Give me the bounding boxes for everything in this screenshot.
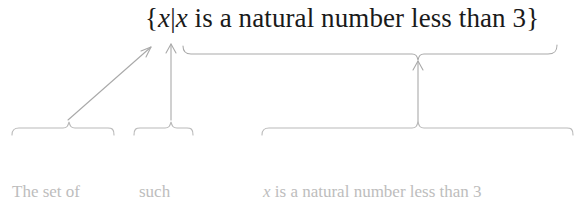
annotation-such-that: such that bbox=[139, 137, 170, 199]
arrow-set-of-all-x bbox=[68, 47, 151, 120]
annotation-condition-line1: x is a natural number less than 3 bbox=[263, 181, 482, 199]
arrow-condition bbox=[413, 61, 423, 122]
annotation-set-of-all-x-line1: The set of bbox=[12, 181, 80, 199]
annotation-set-of-all-x: The set of all x bbox=[12, 137, 80, 199]
brace-condition bbox=[262, 122, 573, 135]
condition-top-brace bbox=[183, 45, 557, 60]
annotation-condition-var: x bbox=[263, 182, 271, 199]
annotation-condition-rest: is a natural number less than 3 bbox=[271, 182, 482, 199]
arrow-such-that bbox=[166, 44, 176, 120]
brace-set-of-all-x bbox=[12, 122, 114, 135]
figure-canvas: {x|x is a natural number less than 3} bbox=[0, 0, 583, 199]
annotation-condition: x is a natural number less than 3 bbox=[263, 137, 482, 199]
annotation-such-that-line1: such bbox=[139, 181, 170, 199]
brace-such-that bbox=[134, 122, 193, 135]
